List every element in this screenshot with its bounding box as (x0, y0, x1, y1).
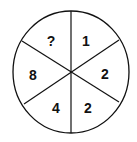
segment-left-value: 8 (29, 67, 37, 83)
segment-bottom-right-value: 2 (84, 100, 92, 116)
segment-top-left-value: ? (47, 33, 56, 49)
segment-top-right-value: 1 (82, 33, 90, 49)
number-wheel: ? 1 2 2 4 8 (0, 0, 137, 142)
segment-bottom-left-value: 4 (52, 100, 60, 116)
segment-right-value: 2 (101, 66, 109, 82)
